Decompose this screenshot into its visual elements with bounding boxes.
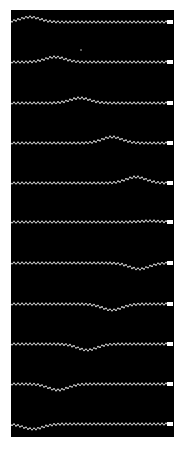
- fixed-end-clamp: [167, 20, 173, 24]
- wave-trace: [11, 220, 173, 225]
- wave-trace: [11, 261, 173, 270]
- fixed-end-clamp: [167, 181, 173, 185]
- wave-trace: [11, 422, 173, 430]
- wave-traces: [0, 0, 179, 450]
- fixed-end-clamp: [167, 261, 173, 265]
- wave-trace: [11, 97, 173, 105]
- fixed-end-clamp: [167, 422, 173, 426]
- fixed-end-clamp: [167, 101, 173, 105]
- fixed-end-clamp: [167, 342, 173, 346]
- fixed-end-clamp: [167, 220, 173, 224]
- wave-trace: [11, 16, 173, 25]
- fixed-end-clamp: [167, 302, 173, 306]
- wave-trace: [11, 382, 173, 391]
- wave-trace: [11, 302, 173, 312]
- wave-trace: [11, 56, 173, 64]
- fixed-end-clamp: [167, 60, 173, 64]
- wave-trace: [11, 136, 173, 145]
- wave-trace: [11, 176, 173, 185]
- wave-trace: [11, 342, 173, 351]
- fixed-end-clamp: [167, 141, 173, 145]
- fixed-end-clamp: [167, 382, 173, 386]
